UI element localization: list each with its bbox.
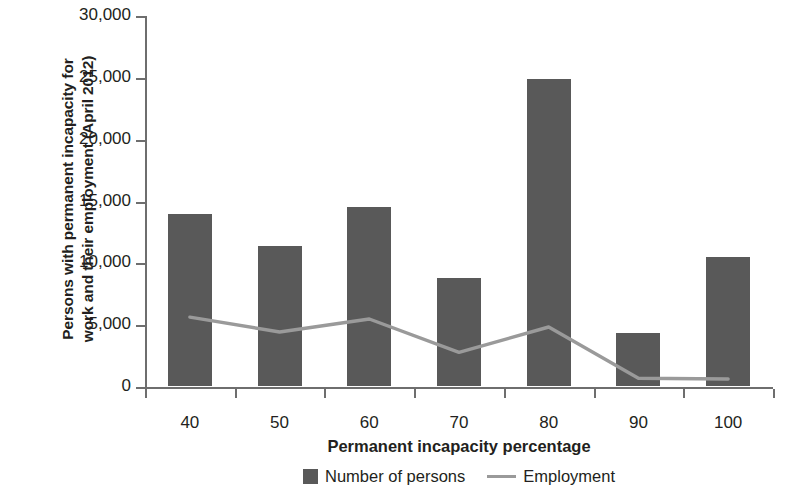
chart-figure: Persons with permanent incapacity for wo… — [0, 0, 787, 499]
x-axis-tick-label: 40 — [180, 413, 199, 433]
x-axis-tick — [145, 389, 147, 398]
y-axis-tick-label: 15,000 — [79, 191, 131, 211]
x-axis-tick-label: 50 — [270, 413, 289, 433]
chart-legend: Number of persons Employment — [145, 467, 773, 486]
x-axis-tick — [594, 389, 596, 398]
y-axis-tick-label: 10,000 — [79, 252, 131, 272]
y-axis-title-line1: Persons with permanent incapacity for — [59, 58, 76, 339]
employment-line-series — [145, 16, 773, 389]
x-axis-tick-label: 60 — [360, 413, 379, 433]
y-axis-tick: 5,000 — [136, 325, 145, 327]
legend-item-number-of-persons: Number of persons — [303, 467, 465, 486]
y-axis-tick: 0 — [136, 387, 145, 389]
legend-label-number-of-persons: Number of persons — [325, 467, 465, 486]
x-axis-tick — [324, 389, 326, 398]
y-axis-tick: 25,000 — [136, 78, 145, 80]
y-axis-title: Persons with permanent incapacity for wo… — [0, 0, 62, 400]
x-axis-tick-label: 90 — [629, 413, 648, 433]
y-axis-tick: 30,000 — [136, 16, 145, 18]
line-swatch-icon — [487, 475, 516, 478]
x-axis-tick-label: 80 — [539, 413, 558, 433]
x-axis-tick — [414, 389, 416, 398]
y-axis-tick-label: 5,000 — [88, 314, 131, 334]
x-axis-title: Permanent incapacity percentage — [145, 437, 773, 456]
x-axis-tick-label: 100 — [714, 413, 742, 433]
y-axis-tick-label: 30,000 — [79, 5, 131, 25]
y-axis-tick: 10,000 — [136, 263, 145, 265]
x-axis-tick — [504, 389, 506, 398]
legend-item-employment: Employment — [487, 467, 615, 486]
x-axis-tick — [683, 389, 685, 398]
y-axis-tick: 20,000 — [136, 140, 145, 142]
plot-area: 05,00010,00015,00020,00025,00030,000 405… — [145, 16, 773, 388]
y-axis-tick-label: 25,000 — [79, 67, 131, 87]
x-axis-tick — [773, 389, 775, 398]
square-swatch-icon — [303, 469, 318, 484]
employment-polyline — [190, 317, 728, 379]
legend-label-employment: Employment — [523, 467, 615, 486]
y-axis-tick: 15,000 — [136, 202, 145, 204]
y-axis-tick-label: 20,000 — [79, 129, 131, 149]
x-axis-tick-label: 70 — [450, 413, 469, 433]
x-axis-tick — [235, 389, 237, 398]
y-axis-tick-label: 0 — [122, 376, 131, 396]
